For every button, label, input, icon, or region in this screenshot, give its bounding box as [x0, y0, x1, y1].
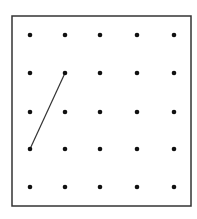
line-segments [30, 73, 65, 149]
grid-dot [172, 185, 177, 190]
grid-dot [135, 110, 140, 115]
grid-dot [28, 110, 33, 115]
grid-dot [63, 185, 68, 190]
grid-dot [98, 71, 103, 76]
grid-dot [172, 71, 177, 76]
grid-dot [98, 110, 103, 115]
grid-dot [98, 185, 103, 190]
grid-dot [28, 147, 33, 152]
grid-dot [63, 71, 68, 76]
grid-dot [28, 71, 33, 76]
grid-dot [135, 185, 140, 190]
dot-grid [28, 33, 177, 190]
line-segment [30, 73, 65, 149]
grid-dot [135, 71, 140, 76]
grid-dot [172, 33, 177, 38]
grid-dot [135, 147, 140, 152]
grid-dot [172, 110, 177, 115]
grid-dot [172, 147, 177, 152]
grid-dot [135, 33, 140, 38]
grid-dot [63, 147, 68, 152]
grid-dot [63, 110, 68, 115]
grid-dot [28, 185, 33, 190]
grid-dot [28, 33, 33, 38]
grid-dot [63, 33, 68, 38]
geoboard-diagram [0, 0, 197, 219]
grid-dot [98, 33, 103, 38]
grid-dot [98, 147, 103, 152]
